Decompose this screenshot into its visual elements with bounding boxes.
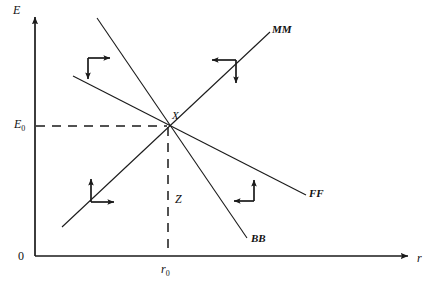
axis-group [35, 17, 408, 256]
equilibrium-point-label: X [172, 110, 179, 121]
curve-bb [97, 18, 247, 238]
arrow-pair-lower-left [91, 179, 114, 202]
curve-group [62, 18, 306, 238]
curve-mm [62, 32, 270, 227]
curve-label-ff: FF [309, 188, 324, 199]
r0-tick-label: r0 [161, 263, 170, 278]
origin-label: 0 [18, 250, 24, 262]
r0-subscript: 0 [166, 269, 170, 278]
diagram-canvas [0, 0, 438, 284]
arrow-pair-upper-right [212, 60, 236, 83]
phase-diagram: E r 0 E0 r0 X MM BB FF ̇Z [0, 0, 438, 284]
e0-subscript: 0 [21, 124, 25, 133]
y-axis-label: E [13, 4, 20, 16]
curve-label-bb: BB [251, 233, 266, 244]
quadrant-arrows [88, 58, 254, 202]
arrow-pair-lower-right [234, 180, 254, 201]
z-dot-label: ̇Z [175, 193, 182, 205]
curve-ff [73, 76, 306, 195]
x-axis-label: r [417, 252, 422, 264]
arrow-pair-upper-left [88, 58, 110, 79]
curve-label-mm: MM [272, 24, 292, 35]
z-dot-base: Z [175, 192, 182, 206]
reference-lines [36, 126, 168, 255]
e0-tick-label: E0 [14, 118, 25, 133]
